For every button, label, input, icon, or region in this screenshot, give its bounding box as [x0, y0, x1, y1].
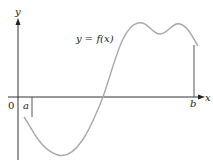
b-label: b: [190, 98, 196, 109]
origin-label: 0: [8, 100, 14, 111]
function-graph: y x 0 a b y = f(x): [0, 0, 213, 164]
a-label: a: [23, 100, 29, 111]
curve-label: y = f(x): [75, 33, 114, 44]
x-axis-label: x: [205, 92, 211, 103]
y-axis-label: y: [14, 6, 21, 17]
x-axis-arrow-icon: [198, 95, 205, 100]
y-axis-arrow-icon: [16, 18, 21, 25]
